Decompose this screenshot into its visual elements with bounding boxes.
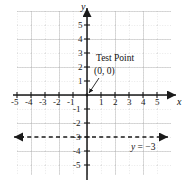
x-tick-label-2: 2: [113, 98, 118, 107]
y-tick-label--4: -4: [73, 147, 81, 156]
y-tick-label--1: -1: [73, 105, 81, 114]
line-equation-value: = −3: [135, 142, 155, 152]
x-tick-label-1: 1: [99, 98, 104, 107]
test-point-coords: (0, 0): [94, 66, 115, 77]
y-tick-label-2: 2: [78, 63, 83, 72]
test-point-label: Test Point: [96, 53, 134, 64]
y-tick-label--3: -3: [73, 133, 81, 142]
line-equation-label: y = −3: [131, 143, 155, 153]
y-tick-label--2: -2: [73, 119, 81, 128]
coordinate-plane-figure: -5 -4 -3 -2 -1 1 2 3 4 5 5 4 3 2 1 -1 -2…: [0, 0, 188, 187]
x-tick-label--2: -2: [53, 98, 61, 107]
y-tick-label-3: 3: [78, 49, 83, 58]
x-tick-label-4: 4: [141, 98, 146, 107]
graph-canvas: [0, 0, 188, 187]
x-tick-label--4: -4: [25, 98, 33, 107]
y-tick-label-1: 1: [78, 77, 83, 86]
x-axis-label: x: [177, 97, 181, 107]
y-axis-label: y: [81, 2, 85, 12]
y-tick-label-5: 5: [78, 21, 83, 30]
x-tick-label--5: -5: [11, 98, 19, 107]
y-tick-label--5: -5: [73, 161, 81, 170]
x-tick-label-3: 3: [127, 98, 132, 107]
x-tick-label--3: -3: [39, 98, 47, 107]
x-tick-label-5: 5: [155, 98, 160, 107]
test-point-marker: [86, 94, 89, 97]
y-tick-label-4: 4: [78, 35, 83, 44]
